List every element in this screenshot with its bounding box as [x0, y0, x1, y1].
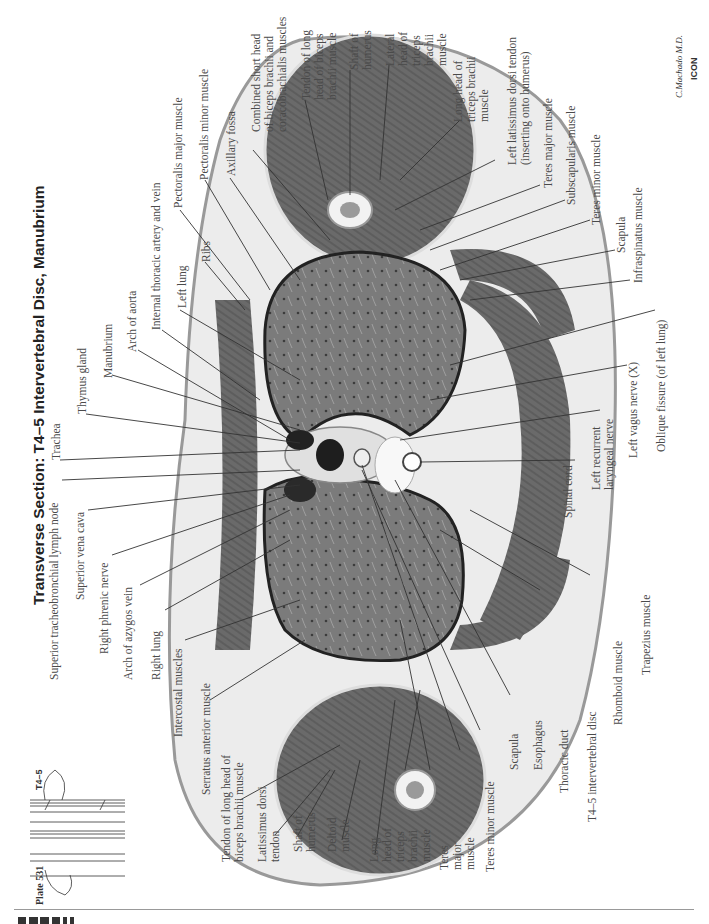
label-shaft-of-humerus-left: Shaft of humerus: [348, 30, 374, 70]
esophagus-shape: [354, 449, 370, 467]
label-thoracic-duct: Thoracic duct: [558, 729, 571, 793]
right-lung: [264, 477, 463, 661]
label-subscapularis: Subscapularis muscle: [565, 106, 578, 205]
label-lateral-head-triceps: Lateral head of triceps brachii muscle: [384, 32, 449, 66]
label-infraspinatus: Infraspinatus muscle: [632, 188, 645, 284]
label-tendon-long-head-biceps-left: Tendon of long head of biceps brachii mu…: [300, 30, 339, 100]
label-superior-vena-cava: Superior vena cava: [74, 512, 87, 600]
label-teres-minor-left: Teres minor muscle: [590, 134, 603, 225]
label-right-phrenic-nerve: Right phrenic nerve: [98, 563, 111, 654]
label-combined-short-head: Combined short head of biceps brachii an…: [250, 17, 289, 132]
publisher-logo: ICON: [689, 58, 699, 81]
label-arch-of-aorta: Arch of aorta: [126, 291, 139, 352]
label-intercostal-muscles: Intercostal muscles: [172, 649, 185, 737]
label-left-vagus-nerve: Left vagus nerve (X): [627, 362, 640, 458]
label-internal-thoracic: Internal thoracic artery and vein: [150, 182, 163, 330]
label-left-latissimus-dorsi-tendon: Left latissimus dorsi tendon (inserting …: [506, 37, 532, 165]
label-axillary-fossa: Axillary fossa: [225, 111, 238, 176]
label-ribs: Ribs: [200, 241, 213, 262]
aorta: [286, 430, 314, 450]
label-rhomboid: Rhomboid muscle: [612, 641, 625, 725]
label-latissimus-dorsi-right: Latissimus dorsi tendon: [256, 786, 282, 862]
label-spinal-cord: Spinal cord: [562, 465, 575, 518]
label-oblique-fissure: Oblique fissure (of left lung): [655, 320, 668, 452]
label-t45-disc: T4–5 intervertebral disc: [586, 712, 599, 823]
label-scapula-left: Scapula: [615, 217, 628, 253]
signature-logo: C.Machado M.D. ICON: [672, 40, 702, 100]
label-long-head-triceps-right: Long head of triceps brachii muscle: [368, 828, 433, 862]
footer-rule: [14, 909, 694, 910]
label-right-lung: Right lung: [150, 631, 163, 680]
label-superior-tracheobronchial-lymph-node: Superior tracheobronchial lymph node: [48, 503, 61, 680]
plate-number: Plate 531: [34, 866, 45, 905]
label-pectoralis-major: Pectoralis major muscle: [172, 98, 185, 209]
level-marker: T4–5: [34, 769, 44, 790]
label-teres-major-right: Teres major muscle: [438, 837, 477, 870]
trachea-shape: [316, 439, 344, 471]
label-thymus-gland: Thymus gland: [76, 348, 89, 414]
label-left-lung: Left lung: [176, 266, 189, 308]
label-manubrium: Manubrium: [102, 324, 115, 378]
label-trachea: Trachea: [50, 423, 63, 460]
label-trapezius: Trapezius muscle: [640, 595, 653, 675]
label-tendon-long-head-biceps-right: Tendon of long head of biceps brachii mu…: [220, 755, 246, 862]
label-esophagus: Esophagus: [532, 720, 545, 770]
label-pectoralis-minor: Pectoralis minor muscle: [198, 69, 211, 180]
label-long-head-triceps-left: Long head of triceps brachii muscle: [452, 57, 491, 122]
label-shaft-of-humerus-right: Shaft of humerus: [292, 812, 318, 852]
label-teres-major-left: Teres major muscle: [542, 98, 555, 188]
label-scapula-right: Scapula: [508, 734, 521, 770]
artist-signature: C.Machado M.D.: [674, 35, 684, 98]
footer-mark: [18, 917, 88, 924]
page-title: Transverse Section: T4–5 Intervertebral …: [30, 185, 48, 605]
spinal-cord-shape: [403, 453, 421, 471]
label-teres-minor-right: Teres minor muscle: [484, 781, 497, 872]
label-arch-of-azygos: Arch of azygos vein: [122, 587, 135, 680]
label-left-recurrent-laryngeal: Left recurrent laryngeal nerve: [590, 419, 616, 490]
label-serratus-anterior: Serratus anterior muscle: [200, 683, 213, 795]
svc: [284, 478, 316, 502]
left-lung: [265, 252, 465, 440]
label-deltoid: Deltoid muscle: [326, 818, 352, 853]
